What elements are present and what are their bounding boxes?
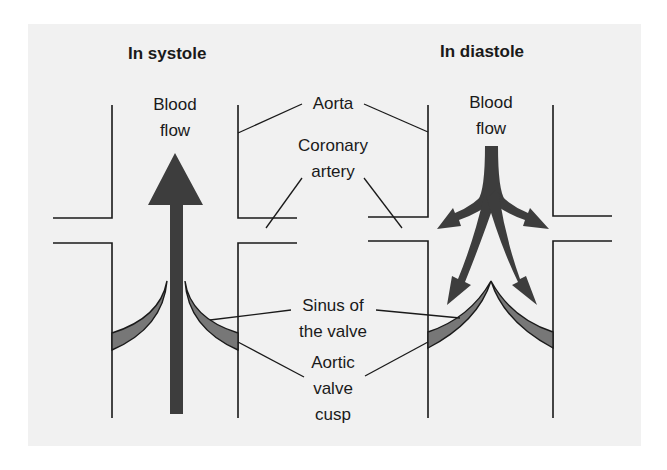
label-line: Aortic [293, 350, 373, 376]
coronary-artery-label: Coronary artery [283, 133, 383, 185]
label-line: artery [283, 159, 383, 185]
sinus-of-valve-label: Sinus of the valve [283, 293, 383, 345]
label-line: Coronary [283, 133, 383, 159]
systole-blood-flow-label: Blood flow [140, 92, 210, 144]
label-line: flow [140, 118, 210, 144]
diastole-valve-cusps [428, 281, 553, 348]
diastole-title: In diastole [440, 42, 524, 62]
label-line: Blood [456, 90, 526, 116]
diastole-blood-flow-label: Blood flow [456, 90, 526, 142]
label-line: valve [293, 376, 373, 402]
label-line: cusp [293, 402, 373, 428]
label-line: flow [456, 116, 526, 142]
label-line: the valve [283, 319, 383, 345]
diastole-blood-flow-arrows [437, 146, 549, 305]
systole-title: In systole [128, 44, 206, 64]
aorta-label: Aorta [298, 91, 368, 117]
label-line: Blood [140, 92, 210, 118]
aortic-valve-cusp-label: Aortic valve cusp [293, 350, 373, 428]
label-line: Sinus of [283, 293, 383, 319]
systole-blood-flow-arrow [148, 153, 203, 414]
